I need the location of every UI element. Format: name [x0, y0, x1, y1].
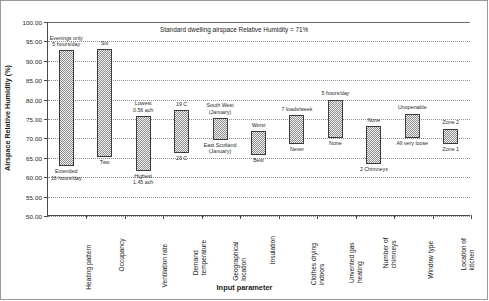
- bar-2[interactable]: [97, 49, 112, 156]
- x-axis-category-label: Occupancy: [117, 239, 125, 272]
- bar-11[interactable]: [443, 129, 458, 145]
- bar-top-annotation: Evenings only 5 hours/day: [50, 35, 83, 48]
- bar-bottom-annotation: All very loose: [397, 140, 429, 146]
- x-axis-tick: [433, 215, 434, 219]
- x-axis-category-label: Clothes drying indoors: [310, 243, 325, 285]
- bar-top-annotation: Six: [101, 40, 108, 46]
- x-axis-tick: [471, 215, 472, 219]
- bar-5[interactable]: [213, 118, 228, 140]
- x-axis-category-label: Unvented gas heating: [348, 242, 363, 283]
- bar-bottom-annotation: Two: [100, 159, 110, 165]
- bar-8[interactable]: [328, 100, 343, 138]
- y-axis-tick: [44, 119, 48, 120]
- y-axis-tick-label: 60.00: [26, 174, 42, 181]
- y-axis-tick: [44, 80, 48, 81]
- bar-bottom-annotation: Highest 1.45 ach: [133, 173, 153, 186]
- gridline: [48, 22, 470, 23]
- bar-top-annotation: Worst: [252, 122, 266, 128]
- x-axis-tick: [240, 215, 241, 219]
- bar-bottom-annotation: Zone 1: [443, 146, 460, 152]
- y-axis-tick: [44, 61, 48, 62]
- x-axis-tick: [356, 215, 357, 219]
- y-axis-tick: [44, 158, 48, 159]
- gridline: [48, 197, 470, 198]
- gridline: [48, 216, 470, 217]
- x-axis-category-label: Location of kitchen: [459, 238, 474, 270]
- y-axis-tick-label: 85.00: [26, 77, 42, 84]
- x-axis-tick: [202, 215, 203, 219]
- y-axis-tick: [44, 197, 48, 198]
- bar-top-annotation: South West (January): [206, 102, 233, 115]
- x-axis-title: Input parameter: [0, 283, 489, 292]
- bar-6[interactable]: [251, 131, 266, 154]
- y-axis-tick: [44, 138, 48, 139]
- gridline: [48, 41, 470, 42]
- gridline: [48, 177, 470, 178]
- x-axis-category-label: Ventilation rate: [161, 244, 169, 288]
- bar-1[interactable]: [59, 50, 74, 166]
- bar-bottom-annotation: Never: [290, 146, 304, 152]
- y-axis-title: Airspace Relative Humidity (%): [3, 65, 12, 171]
- x-axis-category-label: Insulation: [269, 236, 277, 264]
- bar-4[interactable]: [174, 110, 189, 153]
- y-axis-tick-label: 50.00: [26, 213, 42, 220]
- x-axis-tick: [394, 215, 395, 219]
- bar-bottom-annotation: Extended 16 hours/day: [51, 168, 82, 181]
- bar-top-annotation: 19 C: [176, 101, 187, 107]
- y-axis-tick-label: 75.00: [26, 116, 42, 123]
- y-axis-tick-label: 90.00: [26, 57, 42, 64]
- bar-3[interactable]: [136, 116, 151, 170]
- y-axis-tick: [44, 22, 48, 23]
- bar-bottom-annotation: Best: [253, 157, 264, 163]
- bar-top-annotation: 5 hours/day: [322, 90, 350, 96]
- x-axis-category-label: Geographical location: [232, 242, 247, 281]
- bar-10[interactable]: [405, 114, 420, 138]
- y-axis-tick: [44, 41, 48, 42]
- bar-bottom-annotation: 2 Chimneys: [360, 166, 388, 172]
- bar-top-annotation: None: [368, 117, 381, 123]
- bar-top-annotation: Zone 2: [443, 119, 460, 125]
- y-axis-tick-label: 65.00: [26, 154, 42, 161]
- bar-bottom-annotation: 23 C: [176, 155, 187, 161]
- y-axis-tick-label: 55.00: [26, 193, 42, 200]
- bar-bottom-annotation: East Scotland (January): [204, 142, 237, 155]
- y-axis-tick-label: 95.00: [26, 38, 42, 45]
- x-axis-tick: [317, 215, 318, 219]
- y-axis-tick-label: 70.00: [26, 135, 42, 142]
- x-axis-category-label: Demand temperature: [192, 240, 207, 276]
- x-axis-tick: [279, 215, 280, 219]
- x-axis-category-label: Heating pattern: [85, 245, 93, 290]
- x-axis-tick: [163, 215, 164, 219]
- bar-top-annotation: 7 loads/week: [281, 106, 312, 112]
- x-axis-tick: [86, 215, 87, 219]
- bar-7[interactable]: [289, 115, 304, 144]
- y-axis-tick-label: 80.00: [26, 96, 42, 103]
- chart-container: Airspace Relative Humidity (%) Input par…: [0, 0, 489, 301]
- x-axis-category-label: Number of chimneys: [382, 237, 397, 268]
- x-axis-tick: [125, 215, 126, 219]
- x-axis-category-label: Window type: [427, 241, 435, 279]
- bar-bottom-annotation: None: [329, 140, 342, 146]
- y-axis-tick-label: 100.00: [22, 19, 42, 26]
- y-axis-tick: [44, 177, 48, 178]
- bar-top-annotation: Unopenable: [398, 104, 427, 110]
- y-axis-tick: [44, 100, 48, 101]
- bar-top-annotation: Lowest 0.56 ach: [133, 100, 153, 113]
- bar-9[interactable]: [366, 126, 381, 164]
- y-axis-tick: [44, 216, 48, 217]
